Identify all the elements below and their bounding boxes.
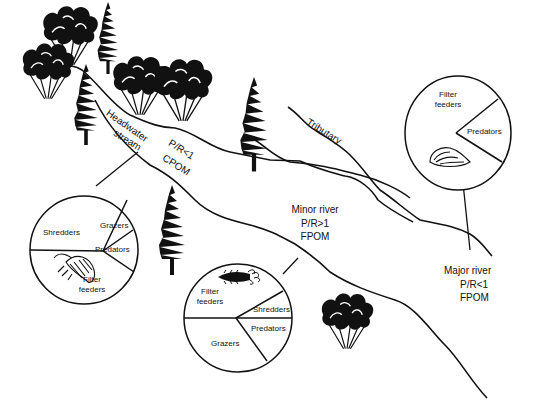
pie-label-filter-feeders: Filter feeders	[72, 276, 112, 295]
minor-river-pr-ratio: P/R>1	[280, 219, 350, 230]
bush-icon	[23, 44, 74, 99]
pie-label-grazers: Grazers	[100, 222, 128, 230]
minor-river-label: Minor river P/R>1 FPOM	[280, 205, 350, 243]
major-river-label: Major river P/R<1 FPOM	[444, 266, 491, 304]
river-continuum-diagram	[0, 0, 541, 414]
pie-label-predators: Predators	[467, 128, 502, 136]
pie-label-filter-feeders: Filter feeders	[425, 91, 471, 110]
pie-label-predators: Predators	[95, 246, 130, 254]
pie-label-shredders: Shredders	[253, 306, 290, 314]
bush-icon	[155, 59, 213, 121]
bush-icon	[322, 294, 373, 349]
conifer-tree-icon	[159, 185, 185, 275]
conifer-tree-icon	[74, 64, 97, 145]
pie-label-predators: Predators	[251, 325, 286, 333]
major-river-pr-ratio: P/R<1	[444, 280, 491, 291]
conifer-tree-icon	[98, 2, 119, 74]
major-river-organic-matter: FPOM	[444, 293, 491, 304]
pie-label-shredders: Shredders	[43, 229, 80, 237]
pie-label-grazers: Grazers	[211, 340, 239, 348]
minor-river-organic-matter: FPOM	[280, 232, 350, 243]
pie-label-filter-feeders: Filter feeders	[190, 288, 230, 307]
conifer-tree-icon	[240, 77, 267, 172]
